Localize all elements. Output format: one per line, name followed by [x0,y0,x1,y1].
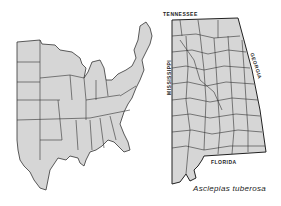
species-caption: Asclepias tuberosa [193,184,266,193]
map-figure [0,0,281,206]
label-florida: FLORIDA [211,159,237,165]
label-mississippi: MISSISSIPPI [166,60,172,95]
us-map [17,22,152,190]
label-tennessee: TENNESSEE [163,11,198,17]
